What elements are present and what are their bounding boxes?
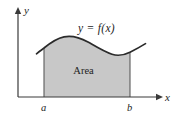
x-axis-label: x [165,92,170,103]
function-label: y = f(x) [78,23,115,35]
figure-canvas [0,0,181,123]
lower-bound-label-a: a [41,103,46,114]
area-region-label: Area [0,66,174,77]
upper-bound-label-b: b [127,103,132,114]
y-axis-label: y [24,5,29,16]
area-under-curve-figure: y x y = f(x) Area a b [0,0,181,123]
